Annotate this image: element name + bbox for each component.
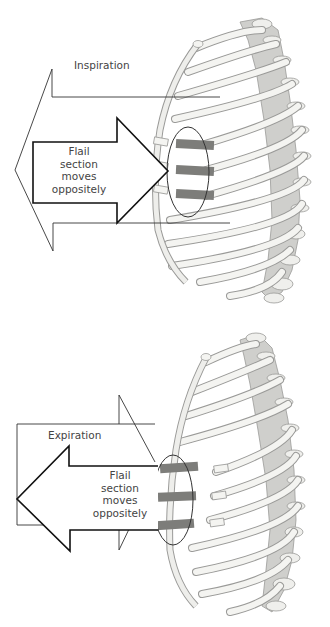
flail-segments: [176, 139, 214, 200]
ribcage-illustration-expiration: [0, 313, 330, 627]
flail-label-expiration: Flail section moves oppositely: [85, 469, 155, 519]
inspiration-panel: Inspiration Flail section moves opposite…: [0, 0, 330, 313]
flail-segments: [156, 462, 199, 531]
expiration-panel: Expiration Flail section moves oppositel…: [0, 313, 330, 627]
flail-label-inspiration: Flail section moves oppositely: [44, 145, 114, 195]
phase-label-expiration: Expiration: [48, 429, 101, 442]
phase-label-inspiration: Inspiration: [74, 59, 130, 72]
